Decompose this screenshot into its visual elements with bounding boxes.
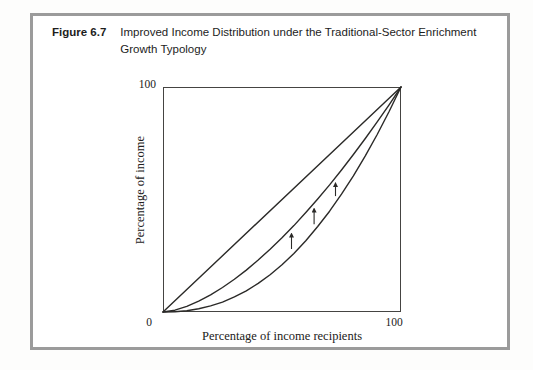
x-axis-label: Percentage of income recipients [163, 329, 401, 344]
lorenz-chart [163, 87, 401, 312]
figure-title: Improved Income Distribution under the T… [120, 24, 476, 58]
lorenz-chart-svg [163, 87, 401, 312]
line-of-equality [163, 87, 401, 312]
figure-title-line2: Growth Typology [120, 41, 476, 58]
x-axis-max-tick: 100 [380, 316, 408, 328]
y-axis-label: Percentage of income [133, 136, 148, 244]
figure-title-line1: Improved Income Distribution under the T… [120, 24, 476, 41]
figure-number: Figure 6.7 [52, 24, 106, 41]
y-axis-max-tick: 100 [126, 78, 156, 90]
figure-caption: Figure 6.7 Improved Income Distribution … [52, 24, 476, 58]
origin-tick: 0 [134, 316, 152, 328]
figure-frame: Figure 6.7 Improved Income Distribution … [30, 13, 510, 350]
page: Figure 6.7 Improved Income Distribution … [0, 0, 533, 370]
